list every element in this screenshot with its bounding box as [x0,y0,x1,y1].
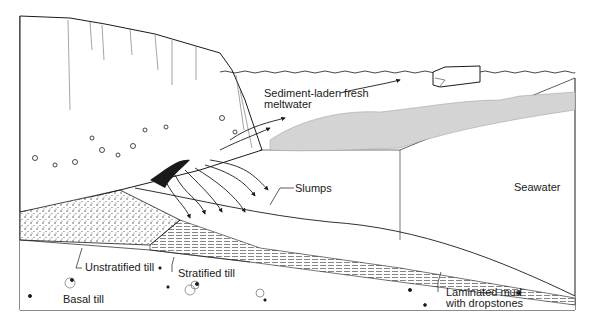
glacial-marine-diagram: Sediment-laden fresh meltwater Slumps Se… [0,0,593,328]
label-laminated-mud: Laminated mud with dropstones [446,287,523,309]
label-seawater: Seawater [514,182,560,193]
label-unstratified-till: Unstratified till [85,262,154,273]
label-meltwater: Sediment-laden fresh meltwater [264,88,369,110]
iceberg [433,66,480,87]
diagram-illustration [0,0,593,328]
label-stratified-till: Stratified till [178,268,235,279]
label-slumps: Slumps [295,183,332,194]
label-basal-till: Basal till [63,294,104,305]
glacier-ice-cliff [20,16,262,212]
